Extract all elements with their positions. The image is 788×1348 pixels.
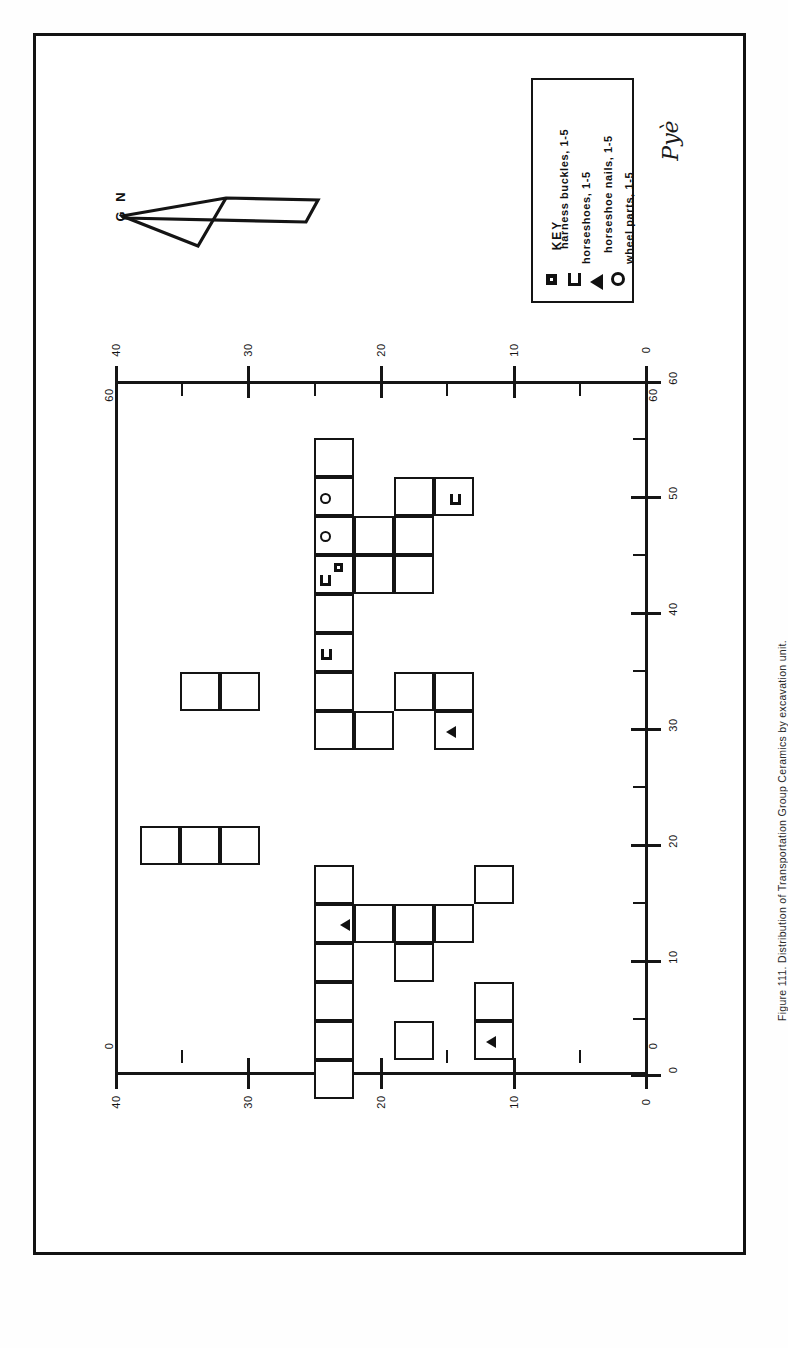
horseshoe-icon: [568, 273, 581, 286]
grid-cell: [314, 516, 354, 555]
grid-cell: [434, 904, 474, 943]
grid-cell: [314, 904, 354, 943]
grid-cell: [314, 943, 354, 982]
grid-cell: [314, 865, 354, 904]
right-axis-major-tick: [631, 960, 661, 963]
grid-cell: [434, 672, 474, 711]
triangle-icon: [340, 919, 350, 931]
key-entry-label: horseshoe nails, 1-5: [602, 113, 614, 253]
north-arrow-icon: [118, 176, 328, 256]
grid-cell: [314, 711, 354, 750]
grid-cell: [314, 477, 354, 516]
key-entry-label: horseshoes, 1-5: [580, 124, 592, 264]
grid-cell: [220, 826, 260, 865]
grid-cell: [394, 555, 434, 594]
key-entry-label: wheel parts, 1-5: [623, 124, 635, 264]
triangle-icon: [590, 274, 603, 290]
bottom-axis-origin-label: 0: [103, 1031, 115, 1061]
top-axis-tick-label: 20: [375, 335, 387, 365]
right-axis-tick-label: 10: [667, 942, 679, 972]
right-axis-tick-label: 0: [667, 1055, 679, 1085]
right-axis-minor-tick: [633, 554, 647, 556]
right-axis-tick-label: 30: [667, 710, 679, 740]
bottom-axis-tick-label: 30: [242, 1087, 254, 1117]
grid-cell: [474, 982, 514, 1021]
right-axis-major-tick: [631, 612, 661, 615]
handwritten-annotation: Pyè: [658, 120, 683, 160]
horseshoe-icon: [321, 649, 332, 660]
grid-cell: [354, 555, 394, 594]
bottom-axis-major-tick: [380, 1058, 383, 1089]
filled-square-icon: [334, 563, 343, 572]
right-axis-minor-tick: [633, 670, 647, 672]
grid-cell: [314, 438, 354, 477]
grid-cell: [354, 516, 394, 555]
top-axis-tick-label: 10: [508, 335, 520, 365]
top-axis-major-tick: [247, 366, 250, 398]
grid-cell: [394, 672, 434, 711]
bottom-axis-end-label: 0: [647, 1031, 659, 1061]
triangle-icon: [446, 726, 456, 738]
key-legend-box: KEY harness buckles, 1-5 horseshoes, 1-5…: [531, 78, 634, 303]
grid-cell: [394, 1021, 434, 1060]
right-axis-minor-tick: [633, 786, 647, 788]
grid-cell: [180, 672, 220, 711]
right-axis-tick-label: 40: [667, 594, 679, 624]
circle-icon: [320, 531, 331, 542]
right-axis-major-tick: [631, 1074, 661, 1077]
top-axis-major-tick: [380, 366, 383, 398]
grid-cell: [314, 633, 354, 672]
grid-cell: [180, 826, 220, 865]
bottom-axis-major-tick: [513, 1058, 516, 1089]
figure-caption: Figure 111. Distribution of Transportati…: [776, 640, 788, 1021]
grid-cell: [394, 516, 434, 555]
right-axis-tick-label: 60: [667, 363, 679, 393]
key-entry-label: harness buckles, 1-5: [558, 109, 570, 249]
grid-cell: [314, 1060, 354, 1099]
top-axis-tick-label: 0: [640, 335, 652, 365]
top-axis-tick-label: 30: [242, 335, 254, 365]
right-axis-tick-label: 20: [667, 826, 679, 856]
circle-icon: [611, 272, 625, 286]
grid-cell: [314, 982, 354, 1021]
grid-cell: [354, 904, 394, 943]
grid-cell: [434, 477, 474, 516]
grid-cell: [314, 1021, 354, 1060]
right-axis-major-tick: [631, 844, 661, 847]
bottom-axis-minor-tick: [446, 1050, 448, 1063]
top-axis-end-label: 60: [647, 380, 659, 410]
top-axis-tick-label: 40: [110, 335, 122, 365]
horseshoe-icon: [450, 494, 461, 505]
grid-cell: [140, 826, 180, 865]
top-axis-major-tick: [513, 366, 516, 398]
top-axis-minor-tick: [446, 383, 448, 396]
left-axis-line: [115, 381, 118, 1075]
right-axis-tick-label: 50: [667, 478, 679, 508]
right-axis-minor-tick: [633, 1018, 647, 1020]
grid-cell: [394, 943, 434, 982]
triangle-icon: [486, 1036, 496, 1048]
circle-icon: [320, 493, 331, 504]
bottom-axis-major-tick: [247, 1058, 250, 1089]
filled-square-icon: [546, 274, 557, 285]
grid-cell: [474, 1021, 514, 1060]
grid-cell: [434, 711, 474, 750]
bottom-axis-minor-tick: [579, 1050, 581, 1063]
grid-cell: [314, 555, 354, 594]
grid-cell: [474, 865, 514, 904]
north-arrow-label: G N: [113, 189, 128, 221]
right-axis-minor-tick: [633, 902, 647, 904]
right-axis-major-tick: [631, 728, 661, 731]
grid-cell: [394, 477, 434, 516]
bottom-axis-tick-label: 40: [110, 1087, 122, 1117]
top-axis-origin-label: 60: [103, 380, 115, 410]
top-axis-minor-tick: [579, 383, 581, 396]
grid-cell: [394, 904, 434, 943]
grid-cell: [314, 594, 354, 633]
grid-cell: [314, 672, 354, 711]
bottom-axis-tick-label: 10: [508, 1087, 520, 1117]
bottom-axis-tick-label: 20: [375, 1087, 387, 1117]
grid-cell: [220, 672, 260, 711]
top-axis-minor-tick: [181, 383, 183, 396]
